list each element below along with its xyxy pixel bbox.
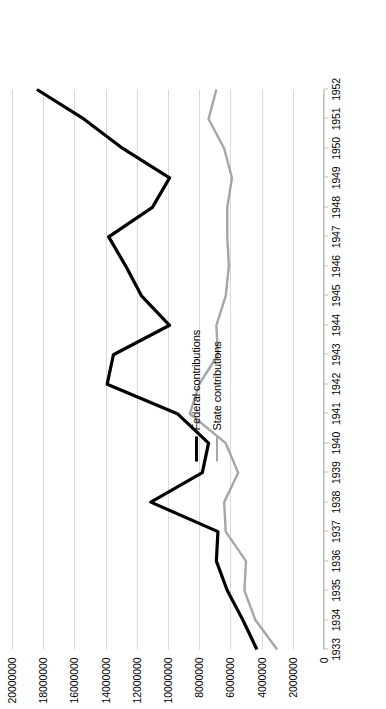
chart-rotated-canvas: 2000000018000000160000001400000012000000… bbox=[0, 0, 386, 709]
line-chart-figure: 2000000018000000160000001400000012000000… bbox=[0, 0, 386, 709]
chart-legend: Federal contributions State contribution… bbox=[190, 329, 223, 461]
value-axis-label: 10000000 bbox=[162, 657, 174, 703]
value-axis-labels: 2000000018000000160000001400000012000000… bbox=[12, 653, 324, 709]
value-axis-label: 14000000 bbox=[100, 657, 112, 703]
category-axis-label: 1946 bbox=[330, 255, 342, 278]
category-axis-label: 1942 bbox=[330, 372, 342, 395]
value-axis-label: 8000000 bbox=[193, 657, 205, 697]
category-axis-label: 1935 bbox=[330, 579, 342, 602]
plot-area: Federal contributions State contribution… bbox=[12, 89, 324, 649]
legend-label-federal: Federal contributions bbox=[190, 329, 202, 430]
legend-swatch-state-icon bbox=[216, 436, 218, 461]
category-axis-label: 1950 bbox=[330, 137, 342, 160]
category-axis-label: 1951 bbox=[330, 107, 342, 130]
chart-root: 2000000018000000160000001400000012000000… bbox=[0, 0, 386, 709]
category-axis-label: 1948 bbox=[330, 196, 342, 219]
category-axis-label: 1943 bbox=[330, 343, 342, 366]
value-axis-label: 16000000 bbox=[68, 657, 80, 703]
category-axis-label: 1945 bbox=[330, 284, 342, 307]
value-axis-label: 18000000 bbox=[37, 657, 49, 703]
category-axis-label: 1934 bbox=[330, 608, 342, 631]
series-line-federal-contributions bbox=[37, 89, 257, 649]
gridline bbox=[324, 89, 325, 649]
category-axis-label: 1937 bbox=[330, 520, 342, 543]
value-axis-label: 2000000 bbox=[287, 657, 299, 697]
legend-label-state: State contributions bbox=[211, 341, 223, 430]
legend-entry-state[interactable]: State contributions bbox=[211, 329, 223, 461]
category-axis-label: 1939 bbox=[330, 461, 342, 484]
legend-swatch-federal-icon bbox=[195, 436, 198, 461]
category-axis-label: 1944 bbox=[330, 314, 342, 337]
value-axis-label: 4000000 bbox=[256, 657, 268, 697]
series-lines bbox=[12, 89, 324, 649]
category-axis-label: 1947 bbox=[330, 225, 342, 248]
category-axis-label: 1940 bbox=[330, 431, 342, 454]
value-axis-label: 6000000 bbox=[224, 657, 236, 697]
value-axis-label: 0 bbox=[318, 657, 330, 663]
category-axis-labels: 1933193419351936193719381939194019411942… bbox=[328, 89, 372, 649]
category-axis-label: 1941 bbox=[330, 402, 342, 425]
legend-entry-federal[interactable]: Federal contributions bbox=[190, 329, 202, 461]
category-axis-label: 1949 bbox=[330, 166, 342, 189]
value-axis-label: 12000000 bbox=[131, 657, 143, 703]
category-axis-label: 1933 bbox=[330, 638, 342, 661]
category-axis-label: 1952 bbox=[330, 78, 342, 101]
category-axis-label: 1936 bbox=[330, 549, 342, 572]
value-axis-label: 20000000 bbox=[6, 657, 18, 703]
category-axis-label: 1938 bbox=[330, 490, 342, 513]
